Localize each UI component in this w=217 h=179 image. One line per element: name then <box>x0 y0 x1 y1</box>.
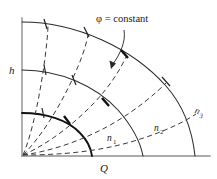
speed-label-n2-base: n <box>154 123 159 133</box>
axes-group <box>22 18 210 156</box>
speed-label-n1: n 1 <box>107 133 116 145</box>
tick-n3-phi4 <box>162 77 170 86</box>
tick-n3-phi2 <box>84 27 89 37</box>
speed-label-n1-sub: 1 <box>113 138 116 145</box>
diagram-canvas: φ = constant h Q n 1 n 2 n 3 <box>0 0 217 179</box>
speed-label-n1-base: n <box>107 133 112 143</box>
phi-constant-label: φ = constant <box>96 13 148 24</box>
speed-label-n2-sub: 2 <box>160 128 164 135</box>
speed-label-n3: n 3 <box>193 105 207 120</box>
phi-curve-2 <box>23 35 88 155</box>
x-axis-label: Q <box>100 162 108 174</box>
labels-group: φ = constant h Q n 1 n 2 n 3 <box>9 13 206 174</box>
y-axis-label: h <box>9 64 15 76</box>
tick-n2-phi1 <box>44 65 46 75</box>
phi-curve-1 <box>23 24 48 155</box>
speed-arc-n1 <box>22 113 92 156</box>
speed-label-n2: n 2 <box>154 123 164 135</box>
phi-pointer-line <box>113 30 124 64</box>
tick-n1-phi1 <box>42 108 44 118</box>
phi-curve-4 <box>23 83 166 155</box>
tick-n2-phi3 <box>102 98 109 106</box>
speed-label-n3-sub: 3 <box>199 112 205 120</box>
pump-characteristic-figure: φ = constant h Q n 1 n 2 n 3 <box>0 0 217 179</box>
